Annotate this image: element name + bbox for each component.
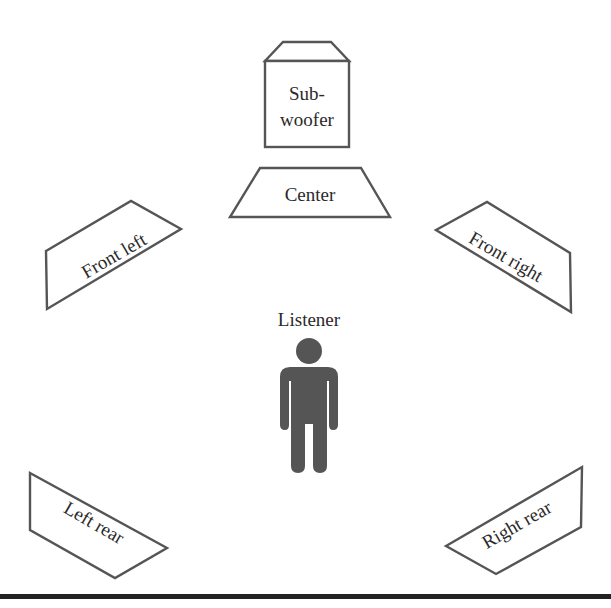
front-left-speaker: Front left — [46, 201, 181, 309]
right-rear-speaker: Right rear — [446, 467, 582, 574]
bottom-rule — [0, 594, 611, 599]
subwoofer-speaker: Sub- woofer — [265, 42, 349, 147]
subwoofer-label-line2: woofer — [280, 109, 334, 130]
listener-label: Listener — [278, 309, 341, 330]
subwoofer-label-line1: Sub- — [289, 83, 325, 104]
left-rear-speaker: Left rear — [30, 473, 167, 578]
center-label: Center — [285, 184, 336, 205]
center-speaker: Center — [230, 168, 390, 217]
front-right-speaker: Front right — [436, 202, 571, 312]
listener: Listener — [278, 309, 341, 473]
person-icon — [280, 338, 338, 473]
speaker-layout-diagram: Sub- woofer Center Front left Front righ… — [0, 0, 611, 608]
